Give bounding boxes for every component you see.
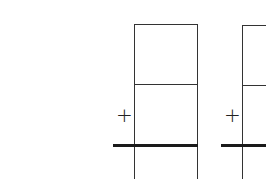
addend-1-cell[interactable] xyxy=(135,25,197,84)
answer-cell[interactable] xyxy=(135,147,197,179)
addend-2-cell[interactable] xyxy=(135,85,197,144)
plus-sign: + xyxy=(116,105,133,125)
addend-1-cell[interactable] xyxy=(243,26,266,85)
addend-2-cell[interactable] xyxy=(243,86,266,145)
plus-sign: + xyxy=(224,105,241,125)
answer-cell[interactable] xyxy=(243,147,266,179)
